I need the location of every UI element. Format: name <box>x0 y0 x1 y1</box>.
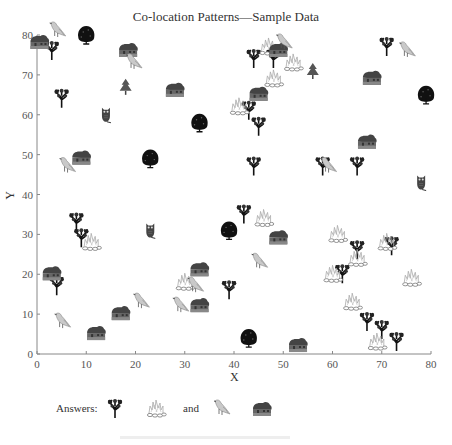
answer-house-icon <box>250 400 274 420</box>
house-icon <box>269 230 288 244</box>
round-tree-icon <box>142 150 158 168</box>
x-tick-label: 30 <box>179 358 191 370</box>
y-tick-label: 20 <box>22 268 34 280</box>
house-icon <box>289 338 308 352</box>
bird-icon <box>50 22 66 37</box>
y-tick-label: 70 <box>22 69 34 81</box>
bird-icon <box>133 293 149 308</box>
y-tick-label: 0 <box>28 348 34 360</box>
bird-icon <box>252 253 268 268</box>
x-tick-label: 10 <box>81 358 93 370</box>
bush-tree-icon <box>222 280 236 299</box>
x-tick-label: 0 <box>34 358 40 370</box>
fire-icon <box>403 269 422 286</box>
round-tree-icon <box>78 26 94 44</box>
house-icon <box>30 35 49 49</box>
house-icon <box>72 151 91 165</box>
house-icon <box>166 83 185 97</box>
house-icon <box>358 135 377 149</box>
chart-figure: Co-location Patterns—Sample Data <box>0 0 452 445</box>
bush-tree-icon <box>247 157 261 176</box>
y-tick-label: 10 <box>22 308 34 320</box>
house-icon <box>43 266 62 280</box>
bush-tree-icon <box>360 312 374 331</box>
fire-icon <box>329 225 348 242</box>
y-tick-label: 30 <box>22 228 34 240</box>
bird-icon <box>55 313 71 328</box>
fire-icon <box>344 293 363 310</box>
bush-tree-icon <box>384 236 398 255</box>
fire-icon <box>230 98 249 115</box>
bird-icon <box>399 42 415 57</box>
owl-icon <box>146 223 155 238</box>
fire-icon <box>255 209 274 226</box>
plot-area: 0102030405060708001020304050607080 <box>0 0 452 445</box>
fire-icon <box>324 265 343 282</box>
data-marks <box>30 22 434 352</box>
house-icon <box>112 306 131 320</box>
fire-icon <box>368 333 387 350</box>
answer-fire-icon <box>144 398 170 420</box>
house-icon <box>250 87 269 101</box>
owl-icon <box>102 108 111 123</box>
x-tick-label: 20 <box>130 358 142 370</box>
round-tree-icon <box>241 329 257 347</box>
bush-tree-icon <box>247 49 261 68</box>
bird-icon <box>173 297 189 312</box>
bush-tree-icon <box>242 101 256 120</box>
fire-icon <box>265 70 284 87</box>
bush-tree-icon <box>389 332 403 351</box>
x-tick-label: 40 <box>229 358 241 370</box>
bush-tree-icon <box>251 117 265 136</box>
y-tick-label: 40 <box>22 189 34 201</box>
house-icon <box>87 326 106 340</box>
answers-label: Answers: <box>56 402 98 414</box>
pine-tree-icon <box>120 79 132 95</box>
bush-tree-icon <box>350 157 364 176</box>
x-axis-label: X <box>230 370 239 385</box>
y-tick-label: 50 <box>22 149 34 161</box>
answer-bush-tree-icon <box>104 398 126 420</box>
house-icon <box>191 298 210 312</box>
y-tick-label: 60 <box>22 109 34 121</box>
house-icon <box>363 71 382 85</box>
bush-tree-icon <box>54 89 68 108</box>
x-tick-label: 70 <box>376 358 388 370</box>
round-tree-icon <box>221 221 237 239</box>
pine-tree-icon <box>307 63 319 79</box>
round-tree-icon <box>191 114 207 132</box>
house-icon <box>191 262 210 276</box>
x-tick-label: 50 <box>278 358 290 370</box>
caption-strip <box>120 436 290 439</box>
y-axis-label: Y <box>3 191 18 200</box>
answer-bird-icon <box>210 397 234 421</box>
x-tick-label: 60 <box>327 358 339 370</box>
bush-tree-icon <box>379 37 393 56</box>
owl-icon <box>417 176 426 191</box>
answers-and-label: and <box>183 402 199 414</box>
x-tick-label: 80 <box>426 358 438 370</box>
round-tree-icon <box>418 86 434 104</box>
bush-tree-icon <box>237 204 251 223</box>
